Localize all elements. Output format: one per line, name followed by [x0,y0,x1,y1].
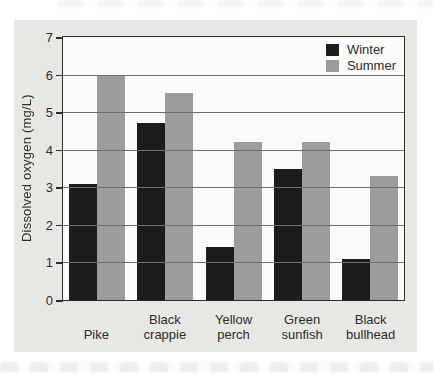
bar-summer-black-bullhead [370,176,398,300]
x-label-black-bullhead: Black bullhead [336,304,405,342]
y-tick-label-1: 1 [33,256,53,269]
gridline-5 [63,112,404,113]
y-tick-mark-5 [56,112,63,114]
scan-artifact-top [58,0,434,7]
y-tick-mark-6 [56,75,63,77]
x-label-black-crappie: Black crappie [131,304,200,342]
x-label-yellow-perch: Yellow perch [199,304,268,342]
bar-summer-green-sunfish [302,142,330,300]
bar-group-pike [63,37,131,300]
scanned-page: Dissolved oxygen (mg/L) WinterSummer 012… [0,0,434,373]
gridline-6 [63,75,404,76]
x-label-green-sunfish: Green sunfish [268,304,337,342]
bar-group-green-sunfish [268,37,336,300]
y-tick-label-2: 2 [33,218,53,231]
bar-summer-black-crappie [165,93,193,300]
y-tick-mark-4 [56,150,63,152]
y-tick-label-4: 4 [33,143,53,156]
bar-summer-yellow-perch [234,142,262,300]
y-tick-mark-0 [56,300,63,302]
legend-label-summer: Summer [347,59,396,72]
bar-winter-black-bullhead [342,259,370,300]
gridline-4 [63,150,404,151]
y-tick-label-6: 6 [33,68,53,81]
legend-item-winter: Winter [326,43,396,56]
legend-swatch-summer [326,60,339,72]
bar-winter-pike [69,184,97,300]
scan-artifact-bottom [0,362,434,372]
legend: WinterSummer [326,43,396,72]
y-tick-mark-3 [56,187,63,189]
x-axis-labels: PikeBlack crappieYellow perchGreen sunfi… [62,304,405,342]
legend-item-summer: Summer [326,59,396,72]
y-tick-mark-1 [56,262,63,264]
bar-group-black-bullhead [336,37,404,300]
y-tick-label-5: 5 [33,106,53,119]
y-tick-mark-7 [56,37,63,39]
plot-area: WinterSummer 01234567 [62,36,405,301]
y-tick-label-0: 0 [33,294,53,307]
gridline-2 [63,225,404,226]
x-label-pike: Pike [62,304,131,342]
legend-swatch-winter [326,44,339,56]
y-tick-label-7: 7 [33,31,53,44]
y-tick-label-3: 3 [33,181,53,194]
bar-group-yellow-perch [199,37,267,300]
gridline-3 [63,187,404,188]
gridline-1 [63,262,404,263]
legend-label-winter: Winter [347,43,385,56]
bar-winter-yellow-perch [206,247,234,300]
chart-figure: Dissolved oxygen (mg/L) WinterSummer 012… [14,20,417,352]
y-tick-mark-2 [56,225,63,227]
bar-group-black-crappie [131,37,199,300]
bar-groups [63,37,404,300]
